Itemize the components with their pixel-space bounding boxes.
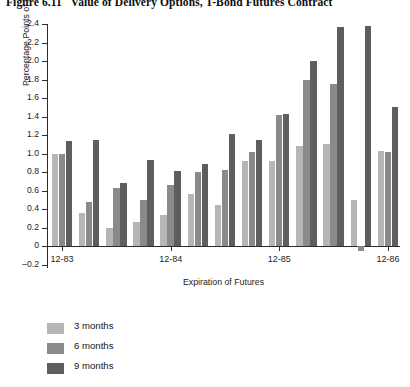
y-tick-mark: [42, 24, 47, 25]
legend-swatch-icon: [47, 323, 64, 334]
bar-9-months-06-85: [229, 134, 235, 246]
y-tick-mark: [42, 135, 47, 136]
bar-6-months-06-86: [330, 84, 336, 246]
bar-6-months-12-85: [276, 115, 282, 246]
legend-label: 6 months: [74, 340, 113, 351]
figure-title-text: Value of Delivery Options, T-Bond Future…: [71, 0, 333, 8]
x-axis-title: Expiration of Futures: [47, 277, 400, 287]
y-tick-label: 0.6: [3, 185, 39, 195]
bar-3-months-03-85: [188, 194, 194, 246]
bar-3-months-09-85: [242, 161, 248, 246]
bar-6-months-06-85: [222, 170, 228, 246]
bar-9-months-12-83: [66, 141, 72, 246]
bar-9-months-06-86: [337, 27, 343, 246]
bar-9-months-12-84: [174, 171, 180, 246]
y-tick-label: 1.6: [3, 92, 39, 102]
y-tick-mark: [42, 117, 47, 118]
y-tick-label: 1.4: [3, 111, 39, 121]
bar-9-months-12-85: [283, 114, 289, 246]
y-axis-line: [47, 24, 48, 268]
bar-3-months-12-86: [378, 151, 384, 246]
bar-3-months-06-84: [106, 228, 112, 247]
y-tick-mark: [42, 191, 47, 192]
bar-9-months-03-86: [310, 61, 316, 246]
figure-number: Figure 6.11: [6, 0, 62, 8]
x-tick-mark: [62, 246, 63, 251]
bar-3-months-03-84: [79, 213, 85, 246]
bar-6-months-09-86: [358, 246, 364, 251]
x-tick-label: 12-84: [159, 254, 182, 264]
y-tick-label: 1.2: [3, 129, 39, 139]
bar-3-months-06-86: [323, 144, 329, 246]
y-axis-title: Percentage Points of Par: [21, 0, 31, 86]
x-tick-mark: [388, 246, 389, 251]
bar-9-months-09-85: [256, 140, 262, 246]
bar-6-months-09-85: [249, 152, 255, 246]
bar-6-months-06-84: [113, 188, 119, 246]
bar-6-months-12-83: [59, 154, 65, 247]
bar-6-months-12-84: [167, 185, 173, 246]
bar-3-months-06-85: [215, 205, 221, 246]
y-tick-label: 0: [3, 240, 39, 250]
legend-label: 3 months: [74, 320, 113, 331]
bar-6-months-03-85: [195, 172, 201, 246]
y-tick-label: 0.2: [3, 222, 39, 232]
y-tick-mark: [42, 172, 47, 173]
y-tick-mark: [42, 98, 47, 99]
chart-plot-area: 2.42.22.01.81.61.41.21.00.80.60.40.20–0.…: [47, 24, 400, 270]
bar-9-months-06-84: [120, 183, 126, 246]
bar-9-months-12-86: [392, 107, 398, 246]
y-tick-mark: [42, 154, 47, 155]
x-axis-line: [47, 246, 400, 247]
x-tick-mark: [171, 246, 172, 251]
bar-9-months-09-84: [147, 160, 153, 246]
y-tick-label: 1.0: [3, 148, 39, 158]
bar-9-months-09-86: [365, 26, 371, 246]
bar-6-months-12-86: [385, 152, 391, 246]
y-tick-mark: [42, 265, 47, 266]
bar-3-months-09-84: [133, 222, 139, 246]
figure-title: Figure 6.11Value of Delivery Options, T-…: [6, 0, 406, 8]
y-tick-label: –0.2: [3, 259, 39, 269]
bar-3-months-12-85: [269, 161, 275, 246]
x-tick-label: 12-85: [268, 254, 291, 264]
bar-3-months-09-86: [351, 200, 357, 246]
y-tick-mark: [42, 61, 47, 62]
x-tick-mark: [279, 246, 280, 251]
legend-swatch-icon: [47, 343, 64, 354]
x-tick-label: 12-86: [376, 254, 399, 264]
y-tick-mark: [42, 43, 47, 44]
x-tick-label: 12-83: [51, 254, 74, 264]
y-tick-mark: [42, 228, 47, 229]
bar-9-months-03-84: [93, 140, 99, 246]
y-tick-label: 0.4: [3, 203, 39, 213]
bar-9-months-03-85: [202, 164, 208, 246]
y-tick-mark: [42, 80, 47, 81]
bar-3-months-12-84: [160, 215, 166, 246]
y-tick-mark: [42, 209, 47, 210]
legend-swatch-icon: [47, 363, 64, 374]
bar-6-months-09-84: [140, 200, 146, 246]
bar-3-months-12-83: [52, 154, 58, 247]
bar-6-months-03-84: [86, 202, 92, 246]
bar-3-months-03-86: [296, 146, 302, 246]
y-tick-mark: [42, 246, 47, 247]
y-tick-label: 0.8: [3, 166, 39, 176]
bar-6-months-03-86: [303, 80, 309, 247]
legend-label: 9 months: [74, 360, 113, 371]
